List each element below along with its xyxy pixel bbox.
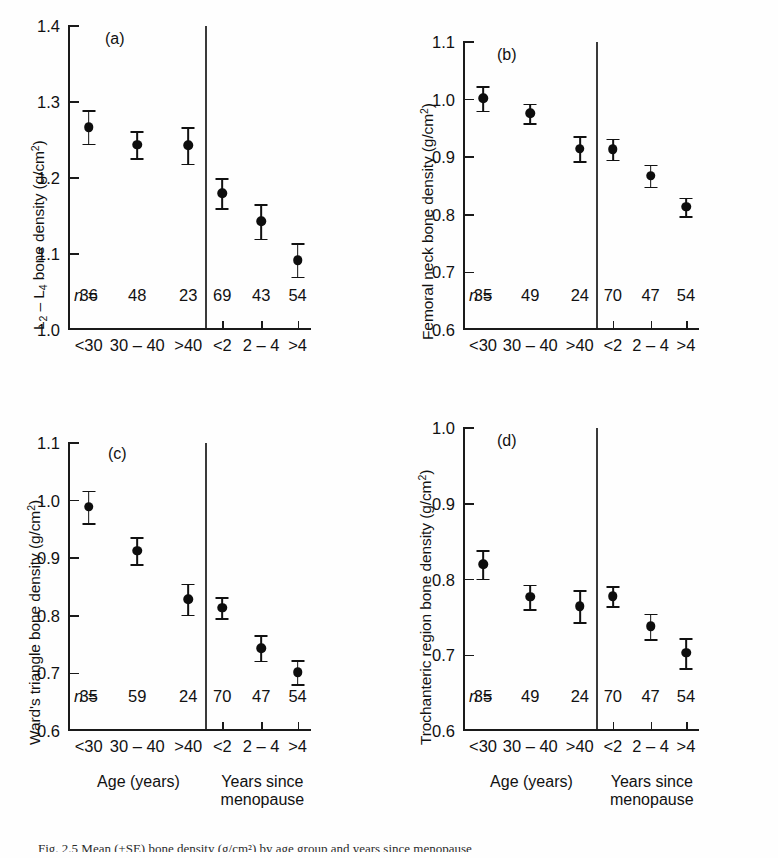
y-tick — [68, 253, 79, 255]
data-point — [251, 26, 271, 330]
data-marker — [256, 643, 266, 653]
y-tick-label: 0.6 — [411, 321, 455, 340]
error-bar-cap-upper — [131, 537, 144, 539]
x-group-label-age: Age (years) — [97, 773, 180, 791]
error-bar-cap-lower — [131, 564, 144, 566]
error-bar-cap-lower — [680, 216, 693, 218]
error-bar-cap-upper — [606, 586, 619, 588]
error-bar-cap-upper — [291, 660, 304, 662]
error-bar-cap-lower — [477, 111, 490, 113]
y-tick-label: 1.3 — [16, 93, 60, 112]
error-bar-cap-lower — [216, 208, 229, 210]
x-axis-tick-label: 2 – 4 — [243, 336, 280, 355]
error-bar-cap-upper — [131, 131, 144, 133]
error-bar-cap-lower — [644, 639, 657, 641]
x-axis-tick-label: >40 — [174, 336, 202, 355]
figure-root: L2 – L4 bone density (g/cm2)1.01.11.21.3… — [0, 0, 778, 858]
error-bar-cap-upper — [182, 127, 195, 129]
n-value: 48 — [128, 286, 146, 305]
panel-d: Trochanteric region bone density (g/cm2)… — [389, 400, 778, 800]
n-value: 54 — [288, 286, 306, 305]
y-tick — [68, 25, 79, 27]
error-bar-cap-upper — [680, 638, 693, 640]
data-marker — [133, 546, 143, 556]
y-tick — [68, 177, 79, 179]
y-tick-label: 0.9 — [16, 549, 60, 568]
data-point — [570, 428, 590, 731]
y-axis-line — [68, 443, 70, 731]
data-marker — [184, 594, 194, 604]
group-divider — [596, 428, 597, 729]
error-bar-cap-upper — [680, 198, 693, 200]
error-bar-cap-lower — [182, 615, 195, 617]
data-marker — [218, 603, 228, 613]
y-tick — [68, 442, 79, 444]
n-value: 23 — [179, 286, 197, 305]
n-value: 49 — [521, 687, 539, 706]
y-tick-label: 1.2 — [16, 169, 60, 188]
n-value: 70 — [604, 286, 622, 305]
n-value: 35 — [474, 687, 492, 706]
data-point — [212, 26, 232, 330]
error-bar-cap-upper — [182, 584, 195, 586]
error-bar-cap-lower — [606, 606, 619, 608]
error-bar-cap-upper — [477, 86, 490, 88]
error-bar-cap-lower — [524, 123, 537, 125]
caption-clip-mask — [0, 852, 778, 858]
x-group-label-age: Age (years) — [490, 773, 573, 791]
y-tick-label: 0.9 — [411, 494, 455, 513]
error-bar-cap-upper — [82, 110, 95, 112]
n-value: 36 — [79, 286, 97, 305]
data-marker — [575, 601, 585, 611]
n-value: 70 — [213, 687, 231, 706]
data-marker — [681, 648, 691, 658]
plot-area: 0.60.70.80.91.01.1n =355924704754 — [68, 443, 311, 731]
y-tick-label: 1.0 — [411, 419, 455, 438]
error-bar-cap-lower — [291, 277, 304, 279]
error-bar-cap-upper — [255, 635, 268, 637]
n-value: 24 — [179, 687, 197, 706]
plot-area: 0.60.70.80.91.0n =354924704754 — [463, 428, 699, 731]
x-axis-tick-label: >40 — [174, 737, 202, 756]
data-marker — [184, 141, 194, 151]
y-tick — [68, 673, 79, 675]
data-point — [127, 26, 147, 330]
x-axis-tick-label: >40 — [566, 336, 594, 355]
n-value: 47 — [641, 687, 659, 706]
y-tick-label: 1.4 — [16, 17, 60, 36]
panel-letter: (b) — [497, 46, 517, 64]
data-marker — [218, 188, 228, 198]
error-bar-cap-upper — [573, 590, 586, 592]
x-axis-tick-label: >40 — [566, 737, 594, 756]
panel-c: Ward's triangle bone density (g/cm2)0.60… — [0, 400, 389, 800]
data-marker — [608, 144, 618, 154]
data-point — [473, 428, 493, 731]
group-divider — [205, 443, 206, 729]
data-marker — [256, 217, 266, 227]
data-marker — [526, 109, 536, 119]
data-marker — [84, 502, 94, 512]
y-tick-label: 0.7 — [411, 263, 455, 282]
panel-a: L2 – L4 bone density (g/cm2)1.01.11.21.3… — [0, 0, 389, 400]
error-bar-cap-upper — [216, 597, 229, 599]
y-tick-label: 0.7 — [16, 664, 60, 683]
y-tick-label: 1.0 — [16, 491, 60, 510]
error-bar-cap-lower — [680, 668, 693, 670]
y-tick-label: 1.1 — [16, 434, 60, 453]
y-tick-label: 0.8 — [411, 570, 455, 589]
error-bar-cap-lower — [573, 622, 586, 624]
error-bar-cap-lower — [82, 144, 95, 146]
x-axis-tick-label: <2 — [213, 336, 232, 355]
y-axis-line — [463, 42, 465, 330]
x-axis-tick-label: 30 – 40 — [110, 737, 165, 756]
y-tick — [68, 500, 79, 502]
y-tick-label: 0.9 — [411, 148, 455, 167]
error-bar-cap-lower — [573, 161, 586, 163]
y-tick-label: 1.1 — [411, 33, 455, 52]
x-axis-tick-label: >4 — [677, 737, 696, 756]
y-tick-label: 0.8 — [16, 606, 60, 625]
error-bar-cap-lower — [606, 160, 619, 162]
x-axis-tick-label: 2 – 4 — [632, 737, 669, 756]
n-value: 43 — [252, 286, 270, 305]
x-axis-tick-label: <30 — [75, 737, 103, 756]
